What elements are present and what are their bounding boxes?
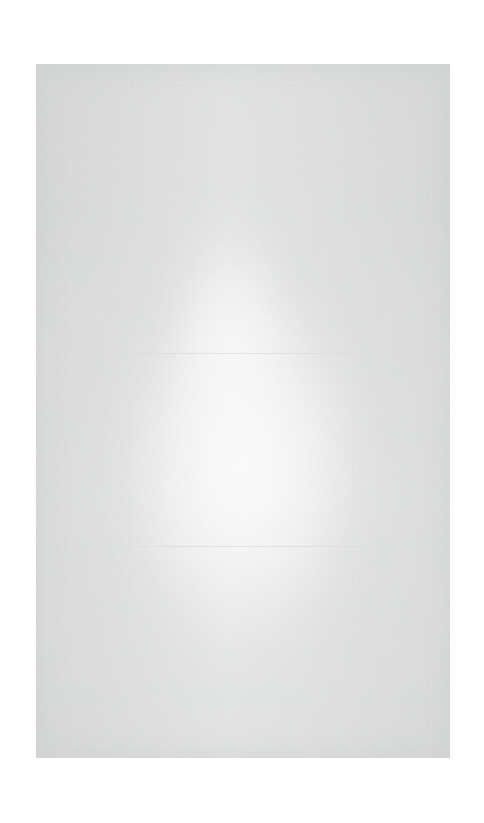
glare-bloom-primary <box>93 252 393 682</box>
horizontal-rule-upper <box>36 353 450 354</box>
content-panel <box>36 64 450 758</box>
page-canvas <box>0 0 484 823</box>
horizontal-rule-lower <box>36 546 450 547</box>
